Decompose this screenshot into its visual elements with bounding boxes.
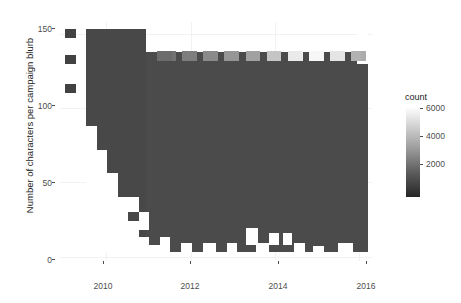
heatmap-empty-cell <box>203 243 216 252</box>
heatmap-cell <box>288 51 303 61</box>
heatmap-cell <box>65 55 76 64</box>
x-tick-mark <box>190 261 191 264</box>
x-tick-label: 2012 <box>160 281 220 291</box>
heatmap-empty-cell <box>149 245 160 252</box>
x-tick-mark <box>103 261 104 264</box>
heatmap-empty-cell <box>283 233 291 245</box>
heatmap-empty-cell <box>118 197 129 252</box>
x-tick-mark <box>278 261 279 264</box>
heatmap-cell <box>65 84 76 93</box>
heatmap-empty-cell <box>269 233 280 245</box>
legend-tick-mark <box>420 108 423 109</box>
heatmap-empty-cell <box>338 243 353 252</box>
legend: count 6000 4000 2000 <box>402 92 461 207</box>
heatmap-cell <box>157 51 172 61</box>
heatmap-empty-cell <box>107 173 118 189</box>
heatmap-cell <box>146 52 367 252</box>
heatmap-empty-cell <box>227 243 238 252</box>
grid-line-horizontal <box>60 257 372 258</box>
legend-tick-label: 2000 <box>426 159 445 169</box>
heatmap-empty-cell <box>160 237 171 252</box>
heatmap-cell <box>182 51 197 61</box>
heatmap-cell <box>330 51 345 61</box>
legend-tick-mark <box>420 164 423 165</box>
legend-tick-label: 6000 <box>426 103 445 113</box>
legend-tick-mark <box>420 136 423 137</box>
legend-title: count <box>405 92 427 102</box>
heatmap-panel <box>60 22 372 261</box>
heatmap-empty-cell <box>256 243 269 252</box>
heatmap-cell <box>246 51 261 61</box>
heatmap-empty-cell <box>181 243 192 252</box>
x-tick-mark <box>366 261 367 264</box>
heatmap-empty-cell <box>139 237 150 252</box>
x-tick-label: 2010 <box>73 281 133 291</box>
heatmap-empty-cell <box>128 221 139 252</box>
legend-tick-label: 4000 <box>426 131 445 141</box>
heatmap-cell <box>224 51 239 61</box>
heatmap-empty-cell <box>97 157 108 173</box>
heatmap-cell <box>267 51 282 61</box>
heatmap-empty-cell <box>294 243 305 252</box>
x-tick-label: 2014 <box>248 281 308 291</box>
plot-figure: Number of characters per campaign blurb … <box>0 0 461 303</box>
heatmap-empty-cell <box>86 126 97 252</box>
heatmap-cell <box>309 51 324 61</box>
heatmap-cell <box>351 51 362 61</box>
heatmap-empty-cell <box>139 212 150 230</box>
heatmap-empty-cell <box>313 246 324 252</box>
legend-gradient-bar <box>406 107 420 197</box>
heatmap-empty-cell <box>128 197 139 212</box>
x-tick-label: 2016 <box>336 281 396 291</box>
heatmap-cell <box>203 51 218 61</box>
heatmap-cell <box>65 29 76 38</box>
